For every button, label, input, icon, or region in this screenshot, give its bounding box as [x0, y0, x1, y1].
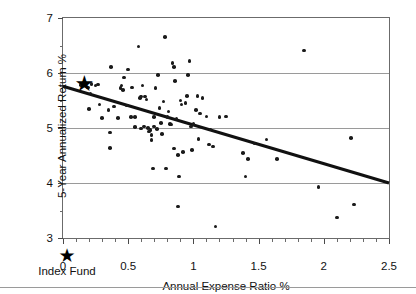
- x-tick-label-1: 1: [173, 260, 213, 272]
- x-minor-tick-1.1: [206, 239, 207, 242]
- data-point: [201, 96, 205, 100]
- data-point: [172, 147, 176, 151]
- data-point: [133, 115, 137, 119]
- x-tick-0.5: [128, 239, 129, 244]
- index-fund-star-icon: ★: [12, 248, 122, 262]
- x-minor-tick-1.4: [246, 239, 247, 242]
- x-tick-label-1.5: 1.5: [239, 260, 279, 272]
- x-minor-tick-0.2: [89, 239, 90, 242]
- data-point: [152, 115, 156, 119]
- x-tick-2.5: [389, 239, 390, 244]
- data-point: [149, 128, 153, 132]
- data-point: [116, 116, 120, 120]
- data-point: [125, 104, 129, 108]
- data-point: [159, 121, 163, 125]
- data-point: [163, 35, 167, 39]
- data-point: [246, 157, 250, 161]
- data-point: [154, 86, 158, 90]
- y-tick-label-6: 6: [13, 67, 53, 79]
- x-minor-tick-1.8: [298, 239, 299, 242]
- data-point: [156, 73, 160, 77]
- data-point: [224, 115, 228, 119]
- data-point: [112, 105, 116, 109]
- y-tick-label-3: 3: [13, 232, 53, 244]
- data-point: [130, 86, 134, 90]
- data-point: [108, 146, 112, 150]
- data-point: [349, 136, 353, 140]
- data-point: [172, 65, 176, 69]
- data-point: [181, 150, 185, 154]
- data-point: [173, 79, 177, 83]
- data-point: [186, 73, 190, 77]
- data-point: [190, 148, 194, 152]
- y-tick-label-4: 4: [13, 177, 53, 189]
- data-point: [192, 122, 196, 126]
- data-point: [188, 59, 192, 63]
- x-minor-tick-1.3: [233, 239, 234, 242]
- x-tick-label-2.5: 2.5: [369, 260, 409, 272]
- trend-line: [63, 18, 389, 238]
- x-minor-tick-0.1: [76, 239, 77, 242]
- data-point: [196, 94, 200, 98]
- x-minor-tick-0.9: [180, 239, 181, 242]
- x-tick-label-2: 2: [304, 260, 344, 272]
- x-minor-tick-0.8: [167, 239, 168, 242]
- data-point: [155, 127, 159, 131]
- x-axis-label: Annual Expense Ratio %: [63, 280, 389, 292]
- data-point: [176, 153, 180, 157]
- y-tick-label-7: 7: [13, 12, 53, 24]
- data-point: [352, 203, 356, 207]
- data-point: [166, 115, 170, 119]
- data-point: [176, 205, 180, 209]
- x-tick-1.5: [259, 239, 260, 244]
- data-point: [317, 185, 321, 189]
- x-minor-tick-1.6: [272, 239, 273, 242]
- data-point: [87, 107, 91, 111]
- x-minor-tick-2.1: [337, 239, 338, 242]
- x-minor-tick-2.3: [363, 239, 364, 242]
- plot-area: 3456700.511.522.55-Year Annualized Retur…: [62, 17, 390, 239]
- data-point: [100, 116, 104, 120]
- x-minor-tick-1.2: [219, 239, 220, 242]
- data-point: [108, 131, 112, 135]
- data-point: [133, 125, 137, 129]
- data-point: [121, 88, 125, 92]
- x-minor-tick-2.2: [350, 239, 351, 242]
- x-tick-1: [193, 239, 194, 244]
- x-minor-tick-1.9: [311, 239, 312, 242]
- bottom-divider: [0, 287, 416, 288]
- x-minor-tick-0.7: [154, 239, 155, 242]
- x-minor-tick-1.7: [285, 239, 286, 242]
- index-fund-star-marker: ★: [75, 73, 95, 95]
- data-point: [194, 108, 198, 112]
- data-point: [109, 65, 113, 69]
- data-point: [160, 132, 164, 136]
- data-point: [185, 94, 189, 98]
- data-point: [177, 175, 181, 179]
- data-point: [275, 157, 279, 161]
- scatter-chart-figure: 3456700.511.522.55-Year Annualized Retur…: [0, 0, 416, 294]
- y-tick-label-5: 5: [13, 122, 53, 134]
- legend: ★ Index Fund: [12, 248, 122, 277]
- data-point: [107, 108, 111, 112]
- x-minor-tick-0.3: [102, 239, 103, 242]
- data-point: [218, 115, 222, 119]
- legend-label-index-fund: Index Fund: [12, 265, 122, 277]
- x-minor-tick-0.4: [115, 239, 116, 242]
- x-minor-tick-0.6: [141, 239, 142, 242]
- data-point: [241, 151, 245, 155]
- x-tick-2: [324, 239, 325, 244]
- x-minor-tick-2.4: [376, 239, 377, 242]
